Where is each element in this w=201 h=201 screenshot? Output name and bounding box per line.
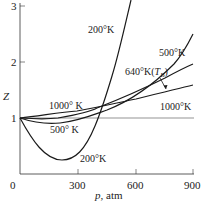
label-640K-text: 640°K( [125,66,155,78]
y-tick-label-2: 2 [11,56,17,68]
label-200K-bottom: 200°K [80,153,107,164]
x-axis-title-unit: , atm [101,189,123,201]
label-500K-top: 500°K [159,47,186,58]
label-640K-close: ) [164,66,167,78]
x-axis-title: p, atm [94,189,123,201]
x-tick-label-900: 900 [184,179,201,191]
curve-200K [20,0,131,160]
label-1000K-right: 1000°K [160,101,192,112]
compressibility-chart: 3 2 1 0 300 600 900 Z p, atm 200°K 500°K… [0,0,201,201]
label-640K-TB: 640°K(TB) [125,66,168,79]
y-tick-label-1: 1 [11,112,17,124]
x-tick-label-0: 0 [10,179,16,191]
y-axis-title: Z [3,90,10,102]
label-200K-top: 200°K [88,24,115,35]
label-1000K-top: 1000° K [49,100,83,111]
y-tick-label-3: 3 [11,0,17,12]
x-tick-label-300: 300 [69,179,86,191]
label-500K-bottom: 500° K [50,124,79,135]
x-tick-label-600: 600 [127,179,144,191]
